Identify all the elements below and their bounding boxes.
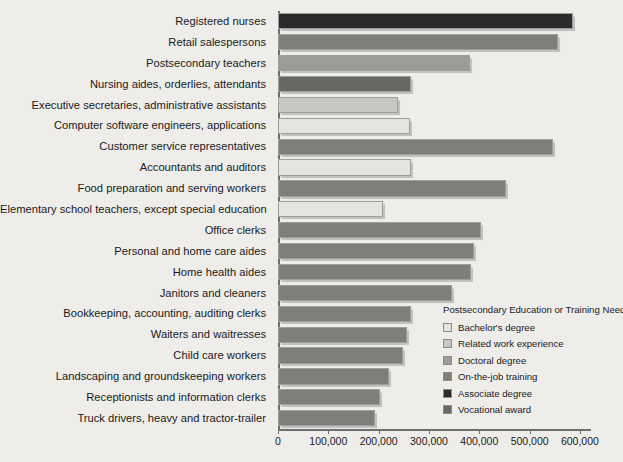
x-tick-label: 200,000 <box>360 435 398 447</box>
x-tick-label: 300,000 <box>410 435 448 447</box>
bar <box>278 389 380 405</box>
category-label: Accountants and auditors <box>0 157 272 178</box>
bar <box>278 368 389 384</box>
category-labels: Registered nursesRetail salespersonsPost… <box>0 11 272 429</box>
bar <box>278 201 383 217</box>
category-label: Waiters and waitresses <box>0 324 272 345</box>
bar <box>278 222 481 238</box>
bar <box>278 243 474 259</box>
bar <box>278 139 553 155</box>
bar-row <box>278 74 590 95</box>
bar-row <box>278 283 590 304</box>
legend-label: Doctoral degree <box>458 355 526 366</box>
bar-row <box>278 157 590 178</box>
x-tick-label: 500,000 <box>511 435 549 447</box>
bar <box>278 118 410 134</box>
bar <box>278 264 471 280</box>
legend-item: Vocational award <box>443 402 621 418</box>
legend: Postsecondary Education or Training Need… <box>443 304 621 418</box>
x-axis-ticks: 0100,000200,000300,000400,000500,000600,… <box>0 429 623 459</box>
bar-row <box>278 136 590 157</box>
x-tick <box>328 429 329 434</box>
x-tick-label: 0 <box>275 435 281 447</box>
bar <box>278 285 452 301</box>
category-label: Home health aides <box>0 262 272 283</box>
category-label: Registered nurses <box>0 11 272 32</box>
category-label: Child care workers <box>0 345 272 366</box>
bar <box>278 97 398 113</box>
bar-chart: Registered nursesRetail salespersonsPost… <box>0 0 623 462</box>
legend-swatch-icon <box>443 339 452 348</box>
bar-row <box>278 32 590 53</box>
bar <box>278 76 411 92</box>
legend-swatch-icon <box>443 389 452 398</box>
bar-row <box>278 262 590 283</box>
x-tick <box>479 429 480 434</box>
legend-swatch-icon <box>443 356 452 365</box>
category-label: Postsecondary teachers <box>0 53 272 74</box>
bar-row <box>278 115 590 136</box>
bar <box>278 410 375 426</box>
legend-item: On-the-job training <box>443 369 621 385</box>
category-label: Landscaping and groundskeeping workers <box>0 366 272 387</box>
bar <box>278 55 470 71</box>
legend-item: Related work experience <box>443 336 621 352</box>
bar-row <box>278 241 590 262</box>
category-label: Office clerks <box>0 220 272 241</box>
category-label: Elementary school teachers, except speci… <box>0 199 272 220</box>
category-label: Bookkeeping, accounting, auditing clerks <box>0 303 272 324</box>
legend-title: Postsecondary Education or Training Need… <box>443 304 621 315</box>
x-tick <box>580 429 581 434</box>
x-tick <box>278 429 279 434</box>
bar <box>278 34 558 50</box>
category-label: Retail salespersons <box>0 32 272 53</box>
category-label: Personal and home care aides <box>0 241 272 262</box>
bar <box>278 327 407 343</box>
bar <box>278 159 411 175</box>
legend-label: On-the-job training <box>458 371 537 382</box>
legend-items: Bachelor's degreeRelated work experience… <box>443 319 621 418</box>
bar <box>278 13 573 29</box>
x-tick <box>429 429 430 434</box>
legend-label: Associate degree <box>458 388 532 399</box>
legend-item: Bachelor's degree <box>443 319 621 335</box>
x-tick <box>530 429 531 434</box>
bar-row <box>278 95 590 116</box>
category-label: Customer service representatives <box>0 136 272 157</box>
category-label: Nursing aides, orderlies, attendants <box>0 74 272 95</box>
legend-swatch-icon <box>443 323 452 332</box>
bar <box>278 306 411 322</box>
bar-row <box>278 53 590 74</box>
bar-row <box>278 178 590 199</box>
category-label: Truck drivers, heavy and tractor-trailer <box>0 408 272 429</box>
legend-label: Bachelor's degree <box>458 322 535 333</box>
legend-label: Related work experience <box>458 338 564 349</box>
x-tick-label: 600,000 <box>561 435 599 447</box>
bar-row <box>278 199 590 220</box>
legend-swatch-icon <box>443 372 452 381</box>
category-label: Food preparation and serving workers <box>0 178 272 199</box>
category-label: Janitors and cleaners <box>0 283 272 304</box>
x-tick-label: 400,000 <box>460 435 498 447</box>
legend-label: Vocational award <box>458 404 531 415</box>
x-tick-label: 100,000 <box>309 435 347 447</box>
legend-item: Doctoral degree <box>443 352 621 368</box>
legend-swatch-icon <box>443 405 452 414</box>
bar <box>278 180 506 196</box>
bar <box>278 347 403 363</box>
bar-row <box>278 11 590 32</box>
category-label: Executive secretaries, administrative as… <box>0 95 272 116</box>
x-tick <box>379 429 380 434</box>
bar-row <box>278 220 590 241</box>
category-label: Computer software engineers, application… <box>0 115 272 136</box>
category-label: Receptionists and information clerks <box>0 387 272 408</box>
legend-item: Associate degree <box>443 385 621 401</box>
